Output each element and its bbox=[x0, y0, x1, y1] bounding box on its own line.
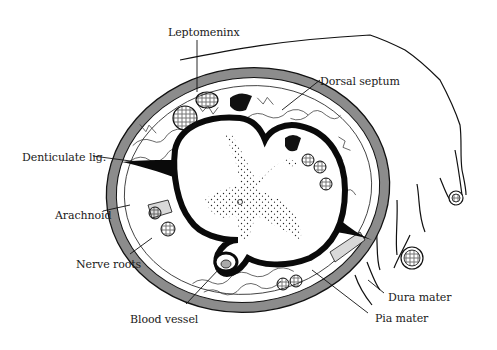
label-leptomeninx: Leptomeninx bbox=[168, 26, 240, 39]
label-dorsal-septum: Dorsal septum bbox=[320, 75, 400, 88]
label-blood-vessel: Blood vessel bbox=[130, 313, 198, 326]
label-dura-mater: Dura mater bbox=[388, 291, 451, 304]
label-pia-mater: Pia mater bbox=[375, 312, 428, 325]
sleeve-nerve-roots bbox=[401, 191, 463, 269]
label-nerve-roots: Nerve roots bbox=[76, 258, 141, 271]
spinal-cord-diagram: Leptomeninx Dorsal septum Denticulate li… bbox=[0, 0, 497, 350]
label-denticulate-lig: Denticulate lig. bbox=[22, 151, 106, 164]
label-arachnoid: Arachnoid bbox=[55, 209, 111, 222]
